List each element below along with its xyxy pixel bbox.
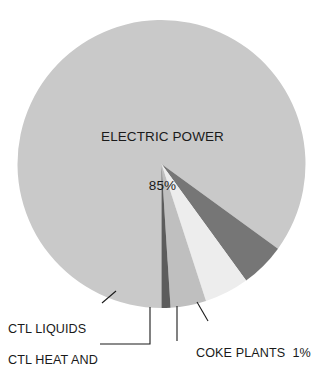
slice-label-electric-power: ELECTRIC POWER 85% (0, 96, 325, 228)
slice-label-electric-power-value: 85% (0, 178, 325, 194)
slice-label-other-industrial: OTHER INDUSTRIAL 4% (167, 339, 325, 366)
slice-label-electric-power-name: ELECTRIC POWER (0, 129, 325, 145)
slice-label-ctl-heat-line1: CTL HEAT AND (8, 353, 168, 366)
slice-label-ctl-heat-and-power: CTL HEAT AND POWER 5% (8, 322, 168, 366)
pie-chart-figure: ELECTRIC POWER 85% CTL LIQUIDS PRODUCTIO… (0, 0, 325, 366)
